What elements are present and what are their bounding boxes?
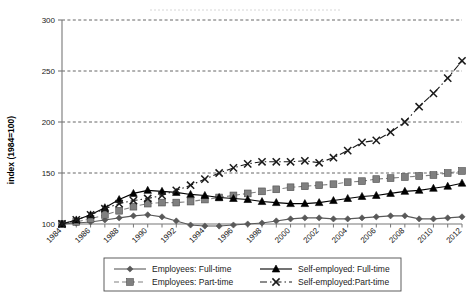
data-point-marker <box>302 215 308 221</box>
data-point-marker <box>259 220 265 226</box>
legend-label: Employees: Full-time <box>152 264 232 274</box>
data-point-marker <box>316 182 323 189</box>
x-tick-label: 1988 <box>102 226 121 245</box>
data-point-marker <box>373 137 380 144</box>
data-point-marker <box>245 221 251 227</box>
data-point-marker <box>458 57 465 64</box>
data-point-marker <box>330 154 337 161</box>
x-tick-label: 1994 <box>187 226 206 245</box>
legend-item: Self-employed:Part-time <box>260 277 389 287</box>
data-point-marker <box>359 178 366 185</box>
data-point-marker <box>230 164 237 171</box>
chart-canvas: 100150200250300 198419861988199019921994… <box>0 0 469 296</box>
data-point-marker <box>387 175 394 182</box>
x-tick-label: 2004 <box>330 226 349 245</box>
y-tick-label: 100 <box>42 220 56 229</box>
data-point-marker <box>130 213 136 219</box>
data-point-marker <box>127 279 134 286</box>
data-point-marker <box>273 186 280 193</box>
data-point-marker <box>430 216 436 222</box>
x-tick-label: 1992 <box>159 226 178 245</box>
data-point-marker <box>373 214 379 220</box>
x-tick-label: 2008 <box>387 226 406 245</box>
x-tick-label: 2000 <box>273 226 292 245</box>
y-tick-label: 150 <box>42 169 56 178</box>
data-point-marker <box>373 176 380 183</box>
data-point-marker <box>201 176 208 183</box>
data-point-marker <box>359 215 365 221</box>
x-tick-label: 2010 <box>416 226 435 245</box>
data-point-marker <box>130 203 137 210</box>
line-chart: 100150200250300 198419861988199019921994… <box>0 0 469 296</box>
data-point-marker <box>173 218 179 224</box>
x-axis-tick-labels: 1984198619881990199219941996199820002002… <box>44 226 463 245</box>
data-point-marker <box>159 199 166 206</box>
data-point-marker <box>173 199 180 206</box>
data-point-marker <box>273 218 279 224</box>
x-tick-label: 2006 <box>359 226 378 245</box>
data-point-marker <box>187 182 194 189</box>
data-point-marker <box>430 90 437 97</box>
data-point-marker <box>145 212 151 218</box>
data-point-marker <box>301 183 308 190</box>
x-tick-label: 2012 <box>444 226 463 245</box>
data-point-marker <box>216 169 223 176</box>
data-point-marker <box>416 216 422 222</box>
y-tick-label: 250 <box>42 67 56 76</box>
data-point-marker <box>445 215 451 221</box>
data-point-marker <box>344 147 351 154</box>
data-point-marker <box>101 211 108 218</box>
data-point-marker <box>444 170 451 177</box>
data-point-marker <box>416 103 423 110</box>
data-point-marker <box>358 139 365 146</box>
data-point-marker <box>230 222 236 228</box>
legend-label: Self-employed: Full-time <box>298 264 390 274</box>
data-point-marker <box>344 179 351 186</box>
data-point-marker <box>244 160 251 167</box>
data-point-marker <box>287 216 293 222</box>
data-point-marker <box>316 215 322 221</box>
data-point-marker <box>116 207 123 214</box>
data-point-marker <box>459 168 466 175</box>
data-point-marker <box>430 172 437 179</box>
data-point-marker <box>401 174 408 181</box>
data-point-marker <box>159 214 165 220</box>
x-tick-label: 1998 <box>244 226 263 245</box>
legend-label: Self-employed:Part-time <box>298 277 389 287</box>
x-tick-label: 1990 <box>130 226 149 245</box>
data-point-marker <box>187 198 194 205</box>
data-point-marker <box>287 184 294 191</box>
y-tick-label: 300 <box>42 16 56 25</box>
gridlines <box>62 10 462 173</box>
chart-legend: Employees: Full-timeSelf-employed: Full-… <box>104 258 401 291</box>
data-series-layer <box>58 57 466 229</box>
data-point-marker <box>458 179 466 186</box>
x-tick-label: 2002 <box>302 226 321 245</box>
data-point-marker <box>416 173 423 180</box>
data-point-marker <box>116 215 122 221</box>
data-point-marker <box>330 216 336 222</box>
data-point-marker <box>187 222 193 228</box>
data-point-marker <box>402 213 408 219</box>
data-point-marker <box>387 129 394 136</box>
data-point-marker <box>330 181 337 188</box>
data-point-marker <box>387 213 393 219</box>
y-tick-label: 200 <box>42 118 56 127</box>
data-point-marker <box>259 188 266 195</box>
data-point-marker <box>444 75 451 82</box>
x-tick-label: 1986 <box>73 226 92 245</box>
legend-label: Employees: Part-time <box>152 277 234 287</box>
y-axis-label: index (1984=100) <box>6 116 16 184</box>
data-point-marker <box>144 186 152 193</box>
y-axis-tick-labels: 100150200250300 <box>42 16 56 229</box>
data-point-marker <box>459 214 465 220</box>
data-point-marker <box>345 216 351 222</box>
